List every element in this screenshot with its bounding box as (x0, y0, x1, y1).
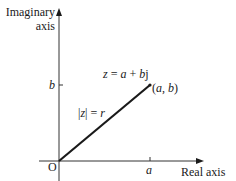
real-axis-arrow-icon (196, 158, 204, 164)
origin-label: O (48, 160, 57, 174)
imaginary-axis-label-line1: Imaginary (6, 5, 55, 19)
imaginary-axis-arrow-icon (56, 8, 62, 16)
b-tick-label: b (49, 78, 55, 92)
vector-z (59, 85, 150, 161)
mod-equals: = (87, 106, 100, 120)
real-axis-label: Real axis (181, 165, 226, 179)
eq-equals: = (108, 67, 121, 81)
eq-plus: + (126, 67, 139, 81)
a-tick-label: a (146, 163, 152, 177)
point-label: (a, b) (152, 81, 178, 95)
modulus-label: |z| = r (78, 106, 105, 120)
mod-r: r (100, 106, 105, 120)
argand-diagram: Imaginary axis Real axis O b a z = a + b… (0, 0, 236, 181)
imaginary-axis-label-line2: axis (36, 19, 56, 33)
equation-label: z = a + bj (102, 67, 149, 81)
pt-close: ) (174, 81, 178, 95)
eq-j: j (144, 67, 148, 81)
